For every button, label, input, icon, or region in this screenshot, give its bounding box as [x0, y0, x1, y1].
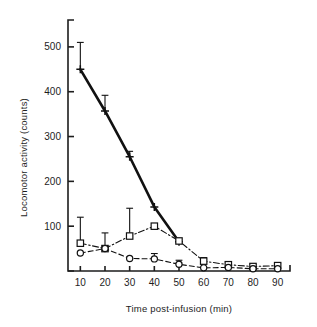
square-marker: [77, 240, 83, 246]
locomotor-activity-line-chart: 100200300400500102030405060708090: [0, 0, 317, 327]
y-tick-label: 300: [44, 131, 61, 142]
x-tick-label: 40: [149, 277, 161, 288]
circle-marker: [201, 265, 207, 271]
square-marker: [200, 258, 206, 264]
x-tick-label: 10: [75, 277, 87, 288]
square-marker: [126, 233, 132, 239]
circle-marker: [225, 264, 231, 270]
x-tick-label: 80: [247, 277, 259, 288]
y-axis-label: Locomotor activity (counts): [18, 73, 29, 243]
circle-marker: [151, 256, 157, 262]
y-tick-label: 200: [44, 176, 61, 187]
x-tick-label: 70: [223, 277, 235, 288]
circle-marker: [250, 266, 256, 272]
figure-container: 100200300400500102030405060708090 Locomo…: [0, 0, 317, 327]
circle-marker: [77, 250, 83, 256]
x-tick-label: 30: [124, 277, 136, 288]
x-tick-label: 20: [99, 277, 111, 288]
circle-marker: [275, 266, 281, 272]
y-tick-label: 100: [44, 221, 61, 232]
x-tick-label: 60: [198, 277, 210, 288]
x-tick-label: 50: [173, 277, 185, 288]
y-tick-label: 500: [44, 41, 61, 52]
square-marker: [176, 238, 182, 244]
x-tick-label: 90: [272, 277, 284, 288]
square-marker: [151, 223, 157, 229]
x-axis-label: Time post-infusion (min): [68, 303, 290, 314]
circle-marker: [102, 245, 108, 251]
y-tick-label: 400: [44, 86, 61, 97]
circle-marker: [127, 255, 133, 261]
circle-marker: [176, 261, 182, 267]
